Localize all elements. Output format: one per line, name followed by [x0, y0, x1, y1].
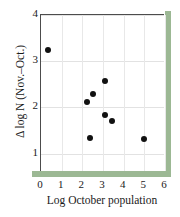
data-point	[102, 112, 108, 118]
y-axis-title: Δ log N (Nov.–Oct.)	[14, 17, 27, 167]
y-tick-label: 1	[27, 147, 38, 158]
gridline-vertical	[165, 15, 166, 171]
y-tick-label: 3	[27, 54, 38, 65]
decorative-green-band-bottom	[32, 171, 171, 177]
data-point	[141, 136, 147, 142]
x-tick-label: 0	[33, 179, 47, 190]
x-axis-title: Log October population	[30, 194, 174, 207]
gridline-vertical	[82, 15, 83, 171]
data-point	[45, 47, 51, 53]
data-point	[90, 91, 96, 97]
gridline-vertical	[62, 15, 63, 171]
data-point	[102, 78, 108, 84]
x-tick-label: 6	[157, 179, 171, 190]
x-tick-label: 3	[95, 179, 109, 190]
data-point	[109, 118, 115, 124]
gridline-vertical	[124, 15, 125, 171]
gridline-vertical	[103, 15, 104, 171]
data-point	[87, 135, 93, 141]
gridline-vertical	[144, 15, 145, 171]
data-point	[84, 99, 90, 105]
y-tick-label: 2	[27, 100, 38, 111]
x-tick-label: 2	[74, 179, 88, 190]
x-tick-label: 4	[116, 179, 130, 190]
scatter-plot-figure: 12340123456 Log October population Δ log…	[0, 0, 180, 217]
x-tick-label: 1	[54, 179, 68, 190]
x-tick-label: 5	[136, 179, 150, 190]
plot-area	[40, 14, 164, 171]
y-tick-label: 4	[27, 8, 38, 19]
